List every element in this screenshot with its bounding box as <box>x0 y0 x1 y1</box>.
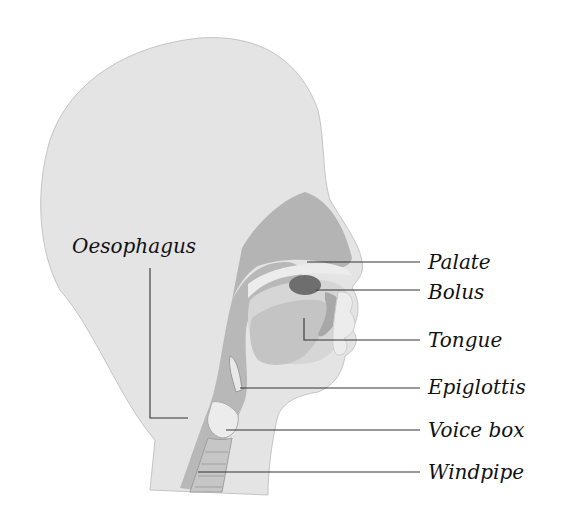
diagram-canvas: Oesophagus Palate Bolus Tongue Epiglotti… <box>0 0 584 519</box>
label-epiglottis: Epiglottis <box>428 377 526 397</box>
label-windpipe: Windpipe <box>428 462 524 482</box>
label-palate: Palate <box>428 252 491 272</box>
label-tongue: Tongue <box>428 330 502 350</box>
label-voice-box: Voice box <box>428 420 525 440</box>
bolus <box>289 275 321 295</box>
label-oesophagus: Oesophagus <box>72 236 196 256</box>
label-bolus: Bolus <box>428 282 484 302</box>
